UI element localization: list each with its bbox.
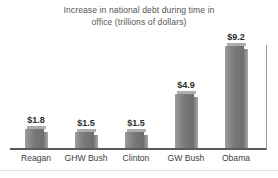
bar-front-face (75, 132, 94, 149)
bar-value-label: $1.8 (14, 115, 58, 125)
bar-group: $1.5 (114, 29, 158, 149)
category-label-ghw-bush: GHW Bush (59, 152, 113, 164)
bar-side-face (144, 135, 148, 149)
category-label-obama: Obama (209, 152, 263, 164)
category-label-clinton: Clinton (109, 152, 163, 164)
plot-frame-right-edge (266, 45, 267, 149)
bar-value-label: $4.9 (164, 80, 208, 90)
category-label-gw-bush: GW Bush (159, 152, 213, 164)
category-axis-line (10, 148, 267, 150)
bar-side-face (244, 49, 248, 149)
plot-area: $1.8 $1.5 $1.5 $4.9 (0, 0, 278, 178)
bar-side-face (44, 132, 48, 149)
bar-group: $4.9 (164, 29, 208, 149)
bar-front-face (125, 132, 144, 149)
bar-group: $1.5 (64, 29, 108, 149)
bar-obama[interactable] (225, 46, 244, 149)
bar-value-label: $1.5 (64, 118, 108, 128)
bar-reagan[interactable] (25, 129, 44, 149)
bar-value-label: $9.2 (214, 32, 258, 42)
bar-gw-bush[interactable] (175, 94, 194, 149)
bar-group: $9.2 (214, 29, 258, 149)
bar-front-face (25, 129, 44, 149)
bar-front-face (225, 46, 244, 149)
bar-side-face (94, 135, 98, 149)
bar-side-face (194, 97, 198, 149)
footer-divider (0, 170, 278, 171)
bar-ghw-bush[interactable] (75, 132, 94, 149)
category-label-reagan: Reagan (9, 152, 63, 164)
bar-group: $1.8 (14, 29, 58, 149)
bar-value-label: $1.5 (114, 118, 158, 128)
bar-chart: Increase in national debt during time in… (0, 0, 278, 178)
bar-front-face (175, 94, 194, 149)
bar-clinton[interactable] (125, 132, 144, 149)
